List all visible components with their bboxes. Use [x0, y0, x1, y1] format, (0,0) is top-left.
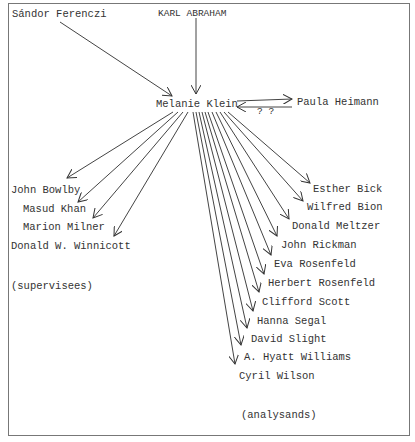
label-supervisee: Marion Milner [23, 221, 105, 233]
arrow-williams [196, 112, 241, 345]
arrow-milner [93, 112, 183, 218]
label-abraham: KARL ABRAHAM [158, 8, 226, 20]
arrow-rickman [216, 112, 277, 236]
label-center: Melanie Klein [156, 98, 238, 110]
label-uncertain: ? ? [257, 106, 274, 118]
label-analysand: John Rickman [281, 239, 357, 251]
arrow-meltzer [220, 112, 289, 219]
label-analysand: Hanna Segal [257, 315, 326, 327]
arrow-wilson [193, 112, 235, 364]
arrow-bowlby [67, 112, 173, 178]
label-supervisee: John Bowlby [11, 184, 80, 196]
label-analysand: David Slight [251, 333, 327, 345]
label-analysand: Clifford Scott [262, 296, 350, 308]
label-peer: Paula Heimann [297, 96, 379, 108]
label-analysand: Herbert Rosenfeld [268, 277, 375, 289]
label-supervisees-caption: (supervisees) [11, 280, 93, 292]
arrow-winnicott [114, 112, 188, 236]
label-analysands-caption: (analysands) [241, 409, 317, 421]
label-analysand: Wilfred Bion [307, 201, 383, 213]
arrow-ferenczi-klein [60, 22, 172, 96]
label-supervisee: Donald W. Winnicott [11, 240, 131, 252]
label-analysand: Cyril Wilson [239, 370, 315, 382]
arrow-klein-heimann [237, 99, 292, 101]
arrow-slight [199, 112, 247, 328]
label-supervisee: Masud Khan [23, 203, 86, 215]
arrow-bion [224, 112, 303, 201]
arrow-bick [228, 112, 310, 183]
label-analysand: Esther Bick [313, 183, 382, 195]
label-analysand: Donald Meltzer [292, 220, 380, 232]
label-analysand: A. Hyatt Williams [244, 351, 351, 363]
arrow-khan [78, 112, 178, 202]
label-ferenczi: Sándor Ferenczi [12, 8, 107, 20]
label-analysand: Eva Rosenfeld [274, 258, 356, 270]
